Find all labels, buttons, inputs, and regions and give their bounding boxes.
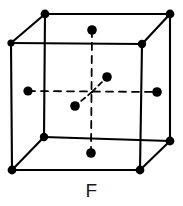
face-center-bottom (86, 148, 96, 158)
corner-front-bottom-right (136, 166, 145, 175)
edge-depth-bottom-right (140, 141, 170, 170)
fcc-unit-cell-figure: F (0, 0, 183, 206)
edge-back-bottom (44, 137, 170, 141)
lattice-diagram (0, 0, 183, 206)
corner-back-bottom-right (166, 137, 175, 146)
edge-depth-top-right (142, 14, 170, 44)
corner-front-top-left (7, 39, 14, 46)
corner-front-bottom-left (8, 166, 17, 175)
corner-back-top-right (166, 10, 175, 19)
face-center-front (70, 101, 80, 111)
edge-front-top (11, 43, 142, 44)
edge-back-left (44, 14, 45, 137)
face-center-left (23, 86, 32, 95)
edge-front-left (11, 43, 12, 170)
corner-back-bottom-left (40, 133, 48, 141)
face-center-top (87, 25, 97, 35)
figure-caption-label: F (0, 180, 183, 202)
face-center-right (152, 87, 162, 97)
corner-front-top-right (138, 40, 146, 48)
edge-front-right (140, 44, 142, 170)
face-center-back (102, 72, 112, 82)
edge-depth-top-left (11, 14, 45, 43)
edge-depth-bottom-left (12, 137, 44, 170)
corner-back-top-left (41, 10, 50, 19)
